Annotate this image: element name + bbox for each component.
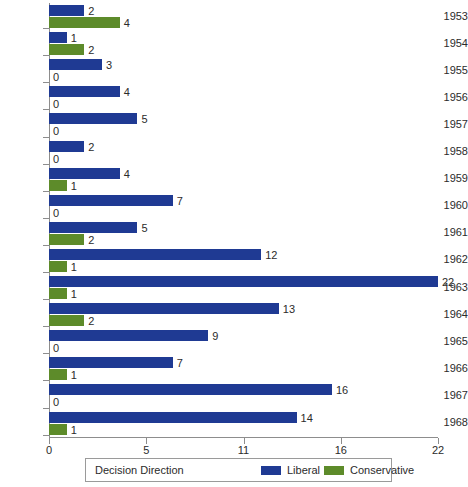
bar-liberal-1968: [49, 412, 297, 423]
y-axis-tick: [43, 408, 49, 409]
bar-liberal-1964: [49, 303, 279, 314]
bar-conservative-1961: [49, 234, 84, 245]
bar-liberal-1967: [49, 384, 332, 395]
y-axis-label-1960: 1960: [423, 199, 468, 211]
y-axis-tick: [43, 299, 49, 300]
legend-label-liberal: Liberal: [287, 464, 320, 476]
bar-value-conservative-1957: 0: [53, 126, 59, 137]
bar-value-liberal-1957: 5: [141, 114, 147, 125]
bar-value-liberal-1956: 4: [124, 87, 130, 98]
bar-liberal-1965: [49, 330, 208, 341]
bar-conservative-1953: [49, 17, 120, 28]
bar-value-conservative-1958: 0: [53, 154, 59, 165]
bar-value-liberal-1967: 16: [336, 385, 348, 396]
y-axis-label-1957: 1957: [423, 118, 468, 130]
bar-value-liberal-1968: 14: [301, 413, 313, 424]
bar-value-liberal-1964: 13: [283, 304, 295, 315]
bar-liberal-1961: [49, 222, 137, 233]
bar-value-liberal-1959: 4: [124, 169, 130, 180]
bar-value-liberal-1963: 22: [442, 277, 454, 288]
bar-liberal-1963: [49, 276, 438, 287]
y-axis-tick: [43, 28, 49, 29]
y-axis-label-1954: 1954: [423, 37, 468, 49]
bar-value-liberal-1953: 2: [88, 6, 94, 17]
bar-conservative-1954: [49, 44, 84, 55]
bar-conservative-1964: [49, 315, 84, 326]
y-axis-label-1966: 1966: [423, 362, 468, 374]
bar-liberal-1955: [49, 59, 102, 70]
bar-liberal-1958: [49, 141, 84, 152]
bar-value-conservative-1964: 2: [88, 316, 94, 327]
y-axis-tick: [43, 109, 49, 110]
y-axis-label-1953: 1953: [423, 10, 468, 22]
y-axis-label-1962: 1962: [423, 253, 468, 265]
bar-liberal-1954: [49, 32, 67, 43]
y-axis-tick: [43, 191, 49, 192]
bar-value-liberal-1958: 2: [88, 142, 94, 153]
y-axis-tick: [43, 326, 49, 327]
y-axis-label-1959: 1959: [423, 172, 468, 184]
bar-liberal-1959: [49, 168, 120, 179]
bar-value-conservative-1959: 1: [71, 181, 77, 192]
bar-liberal-1953: [49, 5, 84, 16]
bar-value-conservative-1956: 0: [53, 99, 59, 110]
x-axis-tick-label-0: 0: [46, 444, 52, 456]
bar-value-conservative-1960: 0: [53, 208, 59, 219]
bar-value-liberal-1965: 9: [212, 331, 218, 342]
x-axis-tick-label-5: 5: [143, 444, 149, 456]
bar-value-conservative-1967: 0: [53, 397, 59, 408]
bar-value-conservative-1953: 4: [124, 18, 130, 29]
y-axis-tick: [43, 272, 49, 273]
y-axis-tick: [43, 380, 49, 381]
y-axis-tick: [43, 137, 49, 138]
bar-liberal-1962: [49, 249, 261, 260]
y-axis-label-1955: 1955: [423, 64, 468, 76]
y-axis-tick: [43, 435, 49, 436]
bar-value-liberal-1960: 7: [177, 196, 183, 207]
bar-value-liberal-1962: 12: [265, 250, 277, 261]
x-axis-tick-label-22: 22: [432, 444, 444, 456]
legend-title: Decision Direction: [95, 464, 184, 476]
bar-liberal-1960: [49, 195, 173, 206]
bar-liberal-1956: [49, 86, 120, 97]
y-axis-tick: [43, 164, 49, 165]
bar-conservative-1959: [49, 180, 67, 191]
y-axis-label-1965: 1965: [423, 335, 468, 347]
y-axis-label-1961: 1961: [423, 226, 468, 238]
y-axis-tick: [43, 353, 49, 354]
chart-legend: Decision Direction Liberal Conservative: [85, 458, 392, 482]
bar-value-liberal-1961: 5: [141, 223, 147, 234]
bar-value-liberal-1954: 1: [71, 33, 77, 44]
bar-value-liberal-1955: 3: [106, 60, 112, 71]
legend-swatch-liberal-icon: [261, 466, 281, 475]
y-axis-tick: [43, 82, 49, 83]
bar-value-conservative-1966: 1: [71, 370, 77, 381]
legend-label-conservative: Conservative: [350, 464, 414, 476]
y-axis-tick: [43, 245, 49, 246]
bar-conservative-1966: [49, 369, 67, 380]
bar-liberal-1957: [49, 113, 137, 124]
y-axis-tick: [43, 55, 49, 56]
bar-conservative-1962: [49, 261, 67, 272]
legend-swatch-conservative-icon: [324, 466, 344, 475]
bar-value-conservative-1961: 2: [88, 235, 94, 246]
bar-value-conservative-1965: 0: [53, 343, 59, 354]
y-axis-label-1964: 1964: [423, 308, 468, 320]
bar-conservative-1968: [49, 424, 67, 435]
bar-value-conservative-1962: 1: [71, 262, 77, 273]
bar-liberal-1966: [49, 357, 173, 368]
bar-value-conservative-1963: 1: [71, 289, 77, 300]
x-axis-tick-label-11: 11: [238, 444, 249, 456]
x-axis-tick-label-16: 16: [335, 444, 347, 456]
bar-value-conservative-1954: 2: [88, 45, 94, 56]
bar-chart: 1953195419551956195719581959196019611962…: [0, 0, 468, 487]
y-axis-tick: [43, 218, 49, 219]
bar-conservative-1963: [49, 288, 67, 299]
bar-value-conservative-1968: 1: [71, 425, 77, 436]
y-axis-label-1967: 1967: [423, 389, 468, 401]
y-axis-label-1958: 1958: [423, 145, 468, 157]
y-axis-label-1956: 1956: [423, 91, 468, 103]
bar-value-conservative-1955: 0: [53, 72, 59, 83]
y-axis-label-1968: 1968: [423, 416, 468, 428]
bar-value-liberal-1966: 7: [177, 358, 183, 369]
